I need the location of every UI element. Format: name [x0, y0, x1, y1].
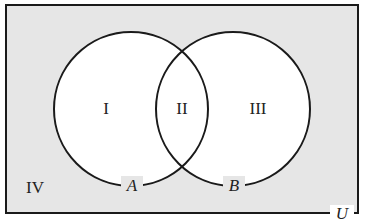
venn-diagram: I II III IV A B U	[0, 0, 366, 222]
region-i-label: I	[103, 99, 109, 118]
region-ii-label: II	[176, 99, 188, 118]
universe-label: U	[336, 204, 350, 222]
region-iv-label: IV	[26, 178, 45, 197]
set-a-label: A	[126, 176, 138, 195]
region-iii-label: III	[250, 99, 267, 118]
set-b-label: B	[229, 176, 240, 195]
